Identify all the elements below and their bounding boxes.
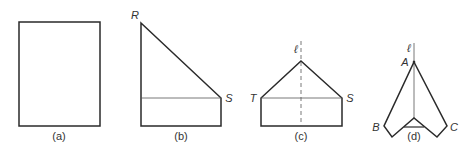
point-label-B: B [372,121,379,133]
folded-shape-b [141,23,221,126]
point-label-A: A [400,56,408,68]
caption-c: (c) [295,130,308,142]
paper-rectangle [19,22,100,126]
point-label-S-c: S [346,92,354,104]
axis-label-c: ℓ [293,43,298,55]
folding-diagram: (a) R S (b) ℓ T S (c) ℓ A B C (d) [0,0,476,152]
point-label-R: R [131,9,139,21]
point-label-S-b: S [225,92,233,104]
folded-shape-d [384,62,447,137]
caption-a: (a) [52,130,65,142]
apex-point-A [413,61,416,64]
panel-c: ℓ T S (c) [250,41,355,142]
folded-shape-c [261,61,342,126]
point-label-C: C [450,121,458,133]
point-label-T: T [250,92,258,104]
axis-label-d: ℓ [406,42,411,54]
panel-a: (a) [19,22,100,142]
caption-d: (d) [407,130,420,142]
panel-d: ℓ A B C (d) [372,42,458,142]
caption-b: (b) [174,130,187,142]
panel-b: R S (b) [131,9,233,142]
